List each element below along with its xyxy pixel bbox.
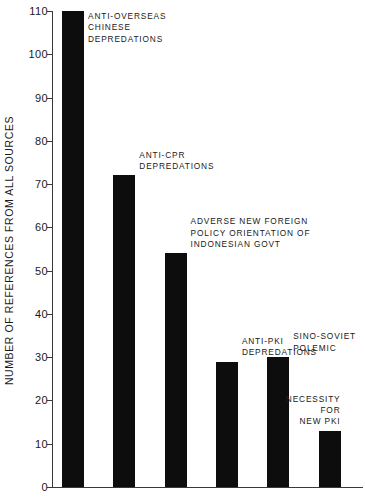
bar-label: ADVERSE NEW FOREIGN POLICY ORIENTATION O… [191,216,311,250]
bar-label: SINO-SOVIET POLEMIC [293,331,356,354]
bar [165,253,187,487]
bar-label: ANTI-OVERSEAS CHINESE DEPREDATIONS [88,11,166,45]
x-axis-line [52,487,363,488]
bar [113,175,135,487]
y-tick-label: 50 [35,265,48,277]
y-tick-label: 70 [35,178,48,190]
y-tick-label: 80 [35,135,48,147]
y-tick-label: 30 [35,351,48,363]
bar-label: ANTI-CPR DEPREDATIONS [139,150,214,173]
bar-chart-figure: NUMBER OF REFERENCES FROM ALL SOURCES 01… [0,0,365,501]
plot-area: 0102030405060708090100110 ANTI-OVERSEAS … [52,11,363,488]
y-tick-label: 60 [35,221,48,233]
y-tick-label: 0 [41,481,48,493]
y-tick-label: 100 [28,48,48,60]
y-tick-label: 20 [35,394,48,406]
y-tick-label: 90 [35,92,48,104]
y-tick-label: 110 [29,5,48,17]
y-axis-title: NUMBER OF REFERENCES FROM ALL SOURCES [0,0,18,501]
y-tick-label: 10 [35,438,48,450]
y-tick-label: 40 [35,308,48,320]
bar [319,431,341,487]
bar-label: NECESSITY FOR NEW PKI [52,394,341,428]
